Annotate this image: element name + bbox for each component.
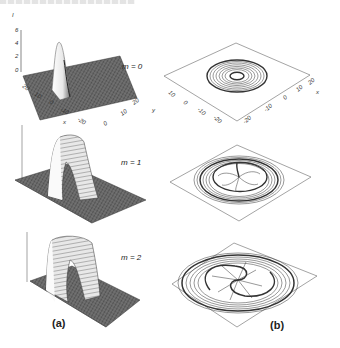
svg-text:-20: -20 [242, 114, 253, 125]
contour-plot-m0: 10 0 -10 -20 -20 -10 0 10 20 x [164, 43, 320, 125]
surface-plot-m2 [27, 232, 140, 327]
svg-text:6: 6 [15, 27, 19, 33]
svg-text:4: 4 [15, 40, 19, 46]
svg-text:0: 0 [182, 99, 189, 106]
panel-label-b: (b) [270, 319, 284, 331]
m-label-row3: m = 2 [121, 253, 142, 262]
svg-text:10: 10 [119, 108, 128, 117]
x-axis-label: x [62, 119, 67, 125]
m-label-row1: m = 0 [122, 62, 143, 71]
contour-plot-m2 [172, 243, 317, 327]
svg-text:0: 0 [15, 67, 19, 73]
svg-text:10: 10 [295, 83, 304, 92]
contour-plot-m1 [170, 145, 311, 221]
figure: I 6 4 2 0 20 10 0 -10 -20 x 0 10 20 y m … [0, 0, 340, 348]
svg-text:-10: -10 [196, 106, 207, 117]
surface-plot-m1 [15, 125, 146, 223]
y-axis-label: y [151, 107, 156, 113]
z-axis-label: I [12, 12, 14, 18]
svg-text:0: 0 [102, 120, 109, 127]
svg-text:10: 10 [167, 89, 176, 98]
m-label-row2: m = 1 [121, 158, 141, 167]
svg-text:0: 0 [282, 94, 289, 101]
svg-text:20: 20 [306, 76, 316, 86]
svg-text:2: 2 [14, 53, 19, 59]
panel-label-a: (a) [52, 317, 66, 329]
svg-text:-20: -20 [212, 114, 223, 125]
svg-text:-20: -20 [76, 116, 87, 126]
svg-text:x: x [315, 89, 320, 95]
